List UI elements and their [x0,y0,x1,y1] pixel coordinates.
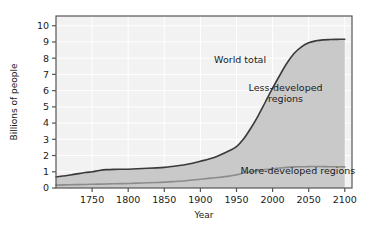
ytick-label: 4 [43,117,49,128]
annotation-less-developed-regions-line2: regions [268,93,303,104]
ytick-label: 7 [43,69,49,80]
xtick-label: 2100 [333,194,357,205]
annotation-more-developed-regions: More-developed regions [241,165,356,176]
xtick-label: 2050 [297,194,321,205]
chart-canvas: 0123456789101750180018501900195020002050… [0,0,375,232]
ytick-label: 10 [37,20,49,31]
ytick-label: 2 [43,150,49,161]
xtick-label: 1950 [224,194,248,205]
ytick-label: 9 [43,36,49,47]
y-axis-title: Billions of people [9,63,19,140]
x-axis-title: Year [193,210,213,220]
annotation-less-developed-regions: Less-developed [249,82,323,93]
ytick-label: 6 [43,85,49,96]
xtick-label: 1900 [188,194,212,205]
ytick-label: 5 [43,101,49,112]
population-projection-chart: 0123456789101750180018501900195020002050… [0,0,375,232]
ytick-label: 3 [43,134,49,145]
xtick-label: 1850 [152,194,176,205]
ytick-label: 0 [43,182,49,193]
ytick-label: 1 [43,166,49,177]
xtick-label: 2000 [260,194,284,205]
annotation-world-total: World total [214,54,266,65]
ytick-label: 8 [43,53,49,64]
xtick-label: 1750 [80,194,104,205]
xtick-label: 1800 [116,194,140,205]
